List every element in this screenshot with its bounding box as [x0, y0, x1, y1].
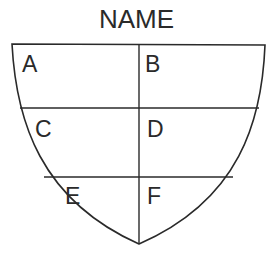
cell-d-label: D [147, 118, 164, 141]
cell-c-label: C [35, 118, 52, 141]
cell-e-label: E [65, 185, 80, 208]
cell-b-label: B [145, 53, 160, 76]
cell-f-label: F [147, 185, 161, 208]
cell-a-label: A [22, 53, 37, 76]
